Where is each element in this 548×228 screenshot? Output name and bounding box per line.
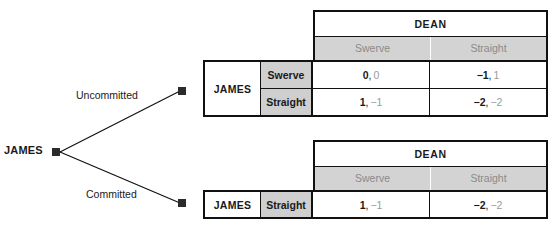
uncommitted-row-strategy-swerve: Swerve [261,62,313,88]
uncommitted-cell-straight-swerve: 1,−1 [313,89,429,115]
committed-row-strategy-straight: Straight [261,192,313,217]
tree-root-player-label: JAMES [4,144,43,156]
committed-matrix-body: JAMES Straight 1,−1 −2,−2 [203,190,548,219]
table-row: Straight 1,−1 −2,−2 [261,192,546,217]
uncommitted-matrix-body: JAMES Swerve 0,0 −1,1 Straight 1,−1 [203,60,548,117]
committed-column-header: DEAN Swerve Straight [313,140,548,192]
committed-cell-straight-straight: −2,−2 [429,192,546,217]
committed-column-strategy-row: Swerve Straight [315,167,546,190]
tree-root-node[interactable] [52,148,60,156]
committed-row-player-label: JAMES [205,192,261,217]
committed-cell-straight-swerve: 1,−1 [313,192,429,217]
uncommitted-column-strategy-swerve: Swerve [315,37,430,60]
tree-node-uncommitted[interactable] [178,87,186,95]
committed-column-strategy-straight: Straight [430,167,546,190]
payoff-col-value: −2 [490,199,502,211]
committed-column-player-label: DEAN [315,142,546,167]
uncommitted-cell-straight-straight: −2,−2 [429,89,546,115]
uncommitted-column-header: DEAN Swerve Straight [313,10,548,62]
uncommitted-rows-area: Swerve 0,0 −1,1 Straight 1,−1 −2,−2 [261,62,546,115]
table-row: Swerve 0,0 −1,1 [261,62,546,88]
uncommitted-cell-swerve-straight: −1,1 [429,62,546,88]
payoff-col-value: −1 [370,96,382,108]
table-row: Straight 1,−1 −2,−2 [261,88,546,115]
branch-label-committed: Committed [86,188,137,200]
uncommitted-column-player-label: DEAN [315,12,546,37]
payoff-col-value: −2 [490,96,502,108]
committed-rows-area: Straight 1,−1 −2,−2 [261,192,546,217]
committed-column-strategy-swerve: Swerve [315,167,430,190]
payoff-col-value: 1 [494,69,500,81]
uncommitted-cell-swerve-swerve: 0,0 [313,62,429,88]
payoff-col-value: −1 [370,199,382,211]
uncommitted-column-strategy-row: Swerve Straight [315,37,546,60]
uncommitted-row-strategy-straight: Straight [261,89,313,115]
tree-node-committed[interactable] [178,199,186,207]
uncommitted-row-player-label: JAMES [205,62,261,115]
payoff-col-value: 0 [373,69,379,81]
payoff-row-value: −2 [474,96,486,108]
branch-label-uncommitted: Uncommitted [76,89,138,101]
payoff-row-value: −2 [474,199,486,211]
uncommitted-column-strategy-straight: Straight [430,37,546,60]
payoff-row-value: −1 [477,69,489,81]
